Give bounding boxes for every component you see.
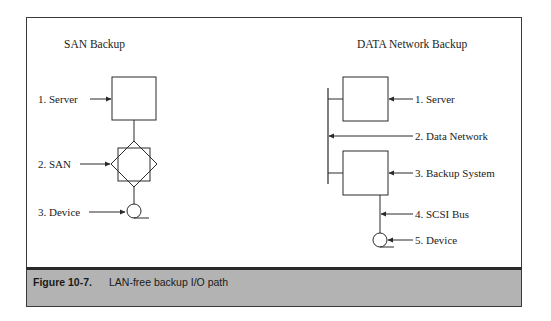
- san-label-san: 2. SAN: [38, 158, 71, 170]
- san-device-icon: [127, 204, 149, 218]
- dn-label-data-network: 2. Data Network: [415, 130, 489, 142]
- caption-text: LAN-free backup I/O path: [109, 276, 228, 288]
- dn-server-box: [343, 77, 388, 121]
- san-backup-panel: SAN Backup 1. Server 2. SAN 3. Device: [38, 38, 157, 218]
- san-backup-title: SAN Backup: [64, 38, 125, 51]
- san-label-server: 1. Server: [38, 93, 78, 105]
- dn-label-server: 1. Server: [415, 93, 455, 105]
- caption-number: Figure 10-7.: [33, 276, 92, 288]
- dn-label-device: 5. Device: [415, 234, 457, 246]
- dn-backup-system-box: [343, 151, 388, 195]
- data-network-backup-panel: DATA Network Backup 1. Server 2. Data Ne…: [328, 38, 495, 247]
- san-switch-icon: [111, 141, 157, 187]
- dn-label-scsi-bus: 4. SCSI Bus: [415, 208, 469, 220]
- figure-caption: Figure 10-7. LAN-free backup I/O path: [26, 267, 522, 307]
- san-server-box: [112, 77, 156, 120]
- diagram: SAN Backup 1. Server 2. SAN 3. Device DA…: [0, 0, 551, 270]
- san-label-device: 3. Device: [38, 206, 80, 218]
- dn-label-backup-system: 3. Backup System: [415, 167, 495, 179]
- data-network-backup-title: DATA Network Backup: [357, 38, 467, 51]
